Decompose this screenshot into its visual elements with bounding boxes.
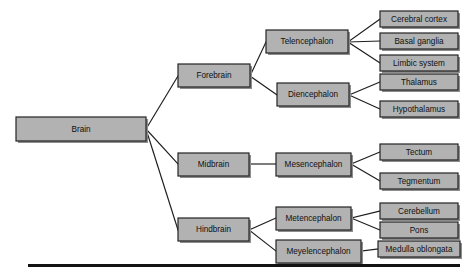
connector-mesencephalon-to-tectum bbox=[351, 152, 380, 164]
node-pons[interactable]: Pons bbox=[380, 222, 460, 240]
node-diencephalon[interactable]: Diencephalon bbox=[277, 83, 351, 108]
connector-hindbrain-to-metencephalon bbox=[249, 218, 276, 230]
node-label: Cerebral cortex bbox=[391, 15, 447, 24]
node-hypothalamus[interactable]: Hypothalamus bbox=[380, 101, 460, 119]
node-label: Thalamus bbox=[401, 78, 437, 87]
node-label: Diencephalon bbox=[288, 90, 339, 99]
node-label: Cerebellum bbox=[398, 207, 440, 216]
connector-meyelencephalon-to-medulla bbox=[361, 249, 378, 251]
node-forebrain[interactable]: Forebrain bbox=[178, 64, 252, 89]
node-label: Hypothalamus bbox=[393, 105, 445, 114]
node-label: Telencephalon bbox=[281, 37, 334, 46]
footer-rule bbox=[28, 264, 460, 267]
node-hindbrain[interactable]: Hindbrain bbox=[178, 218, 251, 243]
connector-brain-to-hindbrain bbox=[146, 129, 178, 230]
connector-brain-to-forebrain bbox=[146, 76, 178, 129]
node-label: Limbic system bbox=[393, 59, 445, 68]
node-label: Pons bbox=[410, 226, 429, 235]
node-cerebellum[interactable]: Cerebellum bbox=[380, 203, 460, 221]
brain-hierarchy-diagram: BrainForebrainMidbrainHindbrainTelenceph… bbox=[0, 0, 472, 272]
node-label: Mesencephalon bbox=[285, 160, 343, 169]
node-label: Medulla oblongata bbox=[386, 245, 453, 254]
node-label: Metencephalon bbox=[286, 214, 342, 223]
connector-diencephalon-to-hypothalamus bbox=[349, 95, 380, 109]
node-label: Tegmentum bbox=[398, 177, 441, 186]
tree-canvas: BrainForebrainMidbrainHindbrainTelenceph… bbox=[0, 0, 472, 272]
connector-telencephalon-to-cerebral-cortex bbox=[348, 19, 380, 42]
node-label: Basal ganglia bbox=[394, 37, 444, 46]
connector-metencephalon-to-cerebellum bbox=[351, 211, 380, 218]
node-midbrain[interactable]: Midbrain bbox=[178, 153, 251, 178]
node-cerebral-cortex[interactable]: Cerebral cortex bbox=[380, 11, 460, 29]
node-label: Midbrain bbox=[198, 160, 230, 169]
node-limbic-system[interactable]: Limbic system bbox=[380, 55, 460, 73]
node-label: Meyelencephalon bbox=[286, 247, 351, 256]
connector-forebrain-to-telencephalon bbox=[250, 42, 266, 76]
connector-telencephalon-to-basal-ganglia bbox=[348, 41, 380, 42]
node-metencephalon[interactable]: Metencephalon bbox=[276, 207, 353, 232]
node-meyelencephalon[interactable]: Meyelencephalon bbox=[276, 240, 363, 265]
connector-telencephalon-to-limbic-system bbox=[348, 42, 380, 63]
node-label: Forebrain bbox=[196, 71, 231, 80]
node-tectum[interactable]: Tectum bbox=[380, 144, 460, 162]
node-medulla-oblongata[interactable]: Medulla oblongata bbox=[378, 241, 462, 259]
node-root[interactable]: Brain bbox=[16, 117, 148, 143]
connector-forebrain-to-diencephalon bbox=[250, 76, 277, 95]
node-basal-ganglia[interactable]: Basal ganglia bbox=[380, 33, 460, 51]
node-tegmentum[interactable]: Tegmentum bbox=[380, 173, 460, 191]
node-layer: BrainForebrainMidbrainHindbrainTelenceph… bbox=[16, 11, 462, 265]
node-telencephalon[interactable]: Telencephalon bbox=[266, 30, 350, 55]
node-mesencephalon[interactable]: Mesencephalon bbox=[276, 153, 353, 178]
connector-diencephalon-to-thalamus bbox=[349, 82, 380, 95]
connector-brain-to-midbrain bbox=[146, 129, 178, 164]
node-label: Tectum bbox=[406, 148, 433, 157]
node-label: Brain bbox=[71, 125, 91, 134]
node-thalamus[interactable]: Thalamus bbox=[380, 74, 460, 92]
connector-mesencephalon-to-tegmentum bbox=[351, 164, 380, 181]
connector-hindbrain-to-meyelencephalon bbox=[249, 230, 276, 251]
connector-metencephalon-to-pons bbox=[351, 218, 380, 230]
node-label: Hindbrain bbox=[196, 225, 231, 234]
